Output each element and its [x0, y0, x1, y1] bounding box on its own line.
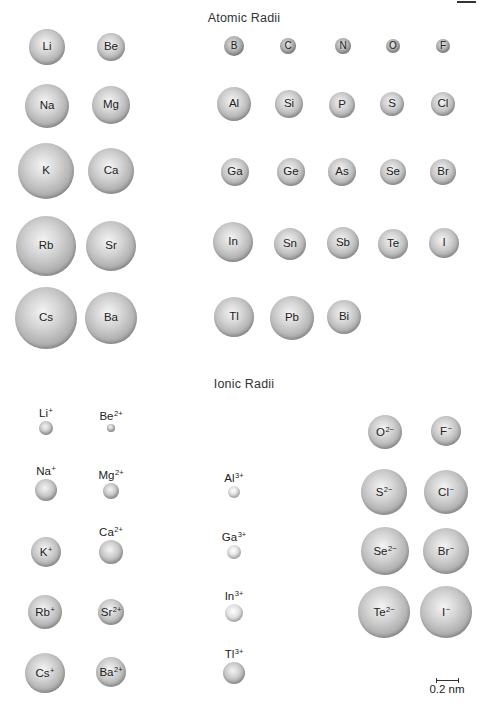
atom-symbol: Sr	[105, 240, 117, 252]
atom-sphere-cl: Cl	[431, 92, 455, 116]
atom-symbol: Cl	[438, 98, 449, 110]
ion-charge: −	[446, 605, 450, 614]
ion-label: Tl3+	[225, 647, 244, 660]
ion-sphere-li	[39, 421, 53, 435]
ion-label: Ca2+	[99, 525, 123, 538]
ion-charge: 2+	[114, 525, 123, 534]
ion-charge: 3+	[235, 647, 244, 656]
ion-label: Ba2+	[99, 666, 122, 679]
scale-bar-label: 0.2 nm	[429, 683, 464, 695]
atom-symbol: Na	[40, 100, 55, 112]
atom-symbol: Mg	[103, 99, 119, 111]
ionic-radii-title: Ionic Radii	[214, 377, 275, 391]
ion-charge: −	[449, 485, 453, 494]
atom-sphere-si: Si	[275, 90, 303, 118]
ion-charge: 2+	[115, 468, 124, 477]
atom-sphere-sr: Sr	[86, 221, 136, 271]
atom-sphere-b: B	[224, 36, 244, 56]
atom-sphere-tl: Tl	[214, 297, 254, 337]
ion-sphere-in	[225, 604, 243, 622]
atom-symbol: B	[231, 41, 238, 51]
ion-charge: 2−	[385, 425, 394, 434]
ion-label: F−	[440, 425, 452, 438]
atom-symbol: Al	[229, 98, 239, 110]
ion-label: K+	[40, 546, 53, 559]
ion-sphere-k: K+	[31, 537, 61, 567]
atom-symbol: Sb	[336, 237, 350, 249]
atom-symbol: P	[338, 99, 346, 111]
ion-sphere-ba: Ba2+	[96, 657, 126, 687]
ion-sphere-se: Se2−	[361, 527, 409, 575]
ion-label: S2−	[376, 486, 393, 499]
ion-charge: 2−	[384, 485, 393, 494]
atom-sphere-li: Li	[29, 29, 65, 65]
atom-symbol: Pb	[285, 312, 299, 324]
atom-symbol: N	[339, 41, 346, 51]
ion-sphere-o: O2−	[368, 415, 402, 449]
ion-charge: 3+	[235, 471, 244, 480]
atom-sphere-mg: Mg	[92, 86, 130, 124]
atom-sphere-se: Se	[380, 159, 406, 185]
atom-sphere-ga: Ga	[221, 158, 249, 186]
atom-sphere-sb: Sb	[327, 227, 359, 259]
ion-sphere-cs: Cs+	[25, 653, 65, 693]
ion-label: Mg2+	[98, 468, 123, 481]
ion-sphere-f: F−	[431, 416, 461, 446]
ion-label: Cs+	[36, 667, 55, 680]
atom-sphere-in: In	[213, 222, 253, 262]
atom-symbol: Ge	[283, 166, 298, 178]
ion-charge: +	[51, 464, 55, 473]
atom-symbol: Ca	[104, 165, 119, 177]
ion-label: I−	[442, 606, 450, 619]
ion-charge: −	[450, 544, 454, 553]
ion-sphere-tl	[223, 662, 245, 684]
atom-sphere-c: C	[280, 38, 296, 54]
atom-sphere-s: S	[380, 92, 404, 116]
atom-sphere-n: N	[335, 38, 351, 54]
ion-label: Ga3+	[222, 530, 246, 543]
atom-symbol: Be	[104, 41, 118, 53]
atom-sphere-ge: Ge	[277, 158, 305, 186]
ion-charge: 2+	[113, 605, 122, 614]
atom-symbol: Se	[386, 166, 400, 178]
ion-sphere-te: Te2−	[358, 586, 410, 638]
ion-charge: 3+	[238, 530, 247, 539]
atom-symbol: Rb	[39, 240, 54, 252]
atom-sphere-as: As	[328, 158, 356, 186]
atom-symbol: Br	[437, 166, 449, 178]
ion-label: Te2−	[373, 606, 394, 619]
ion-label: Sr2+	[101, 606, 122, 619]
atom-symbol: Ba	[104, 312, 118, 324]
atom-symbol: Li	[43, 41, 52, 53]
ion-charge: 2+	[114, 409, 123, 418]
atom-symbol: Si	[284, 98, 294, 110]
atom-sphere-f: F	[436, 39, 450, 53]
atom-symbol: Te	[387, 238, 399, 250]
atom-symbol: As	[335, 166, 348, 178]
atom-symbol: S	[388, 98, 396, 110]
atom-symbol: Cs	[39, 312, 53, 324]
atom-symbol: O	[389, 41, 397, 51]
ion-charge: +	[48, 545, 52, 554]
ion-label: Al3+	[224, 471, 243, 484]
ion-sphere-al	[228, 486, 240, 498]
ion-charge: 2−	[386, 605, 395, 614]
top-edge-mark	[457, 1, 476, 3]
ion-charge: +	[49, 406, 53, 415]
atom-sphere-be: Be	[97, 33, 125, 61]
ion-label: O2−	[376, 426, 394, 439]
atom-sphere-k: K	[18, 143, 74, 199]
ion-sphere-cl: Cl−	[424, 470, 468, 514]
atom-sphere-ba: Ba	[85, 292, 137, 344]
atom-sphere-sn: Sn	[274, 228, 306, 260]
ion-sphere-ca	[99, 540, 123, 564]
atom-symbol: C	[284, 41, 291, 51]
atom-symbol: K	[42, 165, 50, 177]
atom-sphere-pb: Pb	[270, 296, 314, 340]
atom-sphere-bi: Bi	[327, 300, 361, 334]
atomic-radii-title: Atomic Radii	[208, 11, 281, 25]
atom-sphere-br: Br	[430, 159, 456, 185]
ion-sphere-na	[35, 479, 57, 501]
atom-symbol: In	[228, 236, 238, 248]
ion-label: Na+	[36, 464, 56, 477]
